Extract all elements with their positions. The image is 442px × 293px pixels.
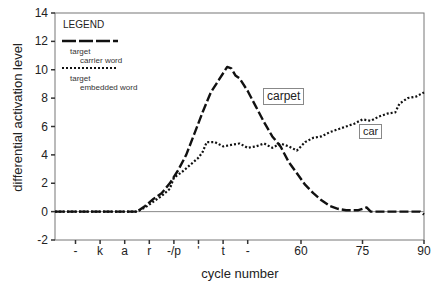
- x-tick-label: -/p: [167, 244, 181, 258]
- legend-entry-embedded-line2: embedded word: [70, 83, 137, 92]
- annotation-car: car: [359, 124, 382, 139]
- legend-entry-embedded-line1: target: [70, 74, 137, 83]
- series-car: [55, 92, 424, 211]
- x-tick-label: t: [221, 244, 225, 258]
- x-tick-label: -: [74, 244, 78, 258]
- y-tick-label: 0: [41, 205, 48, 219]
- legend-entry-carrier-line1: target: [70, 47, 122, 56]
- y-tick-label: 12: [35, 34, 49, 48]
- annotation-carpet: carpet: [263, 88, 304, 105]
- y-tick-label: 14: [35, 6, 49, 20]
- y-tick-label: 8: [41, 91, 48, 105]
- x-tick-label: a: [121, 244, 128, 258]
- y-tick-label: -2: [37, 233, 48, 247]
- x-tick-label: k: [97, 244, 104, 258]
- legend-entry-carrier-line2: carrier word: [70, 56, 122, 65]
- legend-entry-carrier: target carrier word: [70, 47, 122, 65]
- x-tick-label: 75: [356, 244, 370, 258]
- line-chart: -202468101214-kar-/p't-607590: [0, 0, 442, 293]
- y-axis-label: differential activation level: [10, 43, 25, 193]
- x-axis-label: cycle number: [170, 266, 310, 281]
- x-tick-label: -: [246, 244, 250, 258]
- legend-title: LEGEND: [63, 19, 104, 30]
- x-tick-label: r: [147, 244, 151, 258]
- y-tick-label: 2: [41, 176, 48, 190]
- legend-entry-embedded: target embedded word: [70, 74, 137, 92]
- y-tick-label: 10: [35, 63, 49, 77]
- x-tick-label: 60: [294, 244, 308, 258]
- y-tick-label: 6: [41, 120, 48, 134]
- x-tick-label: 90: [417, 244, 431, 258]
- y-tick-label: 4: [41, 148, 48, 162]
- x-tick-label: ': [197, 244, 199, 258]
